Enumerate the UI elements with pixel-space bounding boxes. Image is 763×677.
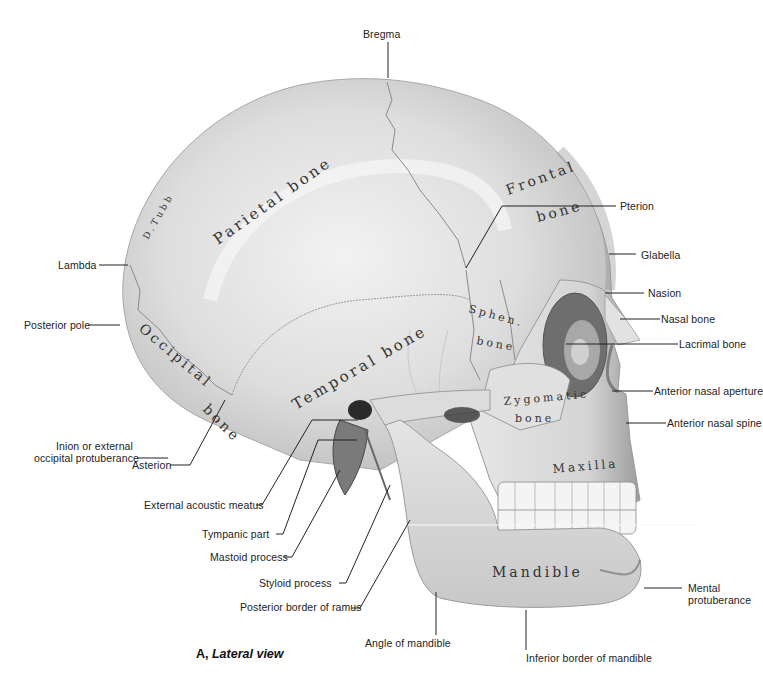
label-angle-of-mandible: Angle of mandible <box>365 637 451 649</box>
label-pterion: Pterion <box>620 200 654 212</box>
label-asterion: Asterion <box>132 459 171 471</box>
label-inion-line-2: occipital protuberance <box>34 452 133 464</box>
label-external-acoustic-meatus: External acoustic meatus <box>144 499 264 511</box>
label-anterior-nasal-aperture: Anterior nasal aperture <box>654 385 763 397</box>
label-anterior-nasal-spine: Anterior nasal spine <box>667 417 762 429</box>
label-nasal-bone: Nasal bone <box>661 313 715 325</box>
label-posterior-pole: Posterior pole <box>24 319 90 331</box>
label-lacrimal-bone: Lacrimal bone <box>679 338 746 350</box>
label-nasion: Nasion <box>648 287 681 299</box>
label-lambda: Lambda <box>58 259 97 271</box>
label-mental-protuberance-line-2: protuberance <box>688 594 751 606</box>
figure-caption: A, Lateral view <box>196 647 284 661</box>
label-glabella: Glabella <box>641 249 680 261</box>
label-inion: Inion or external occipital protuberance <box>34 440 133 464</box>
teeth <box>498 482 636 534</box>
label-mastoid-process: Mastoid process <box>210 551 288 563</box>
caption-title: Lateral view <box>212 647 284 661</box>
label-styloid-process: Styloid process <box>259 577 332 589</box>
label-mental-protuberance-line-1: Mental <box>688 582 751 594</box>
label-tympanic-part: Tympanic part <box>202 528 269 540</box>
label-mental-protuberance: Mental protuberance <box>688 582 751 606</box>
zygomatic-bone-name-2: bone <box>515 412 554 425</box>
mandible-bone-name: Mandible <box>492 564 583 580</box>
label-inferior-border-mandible: Inferior border of mandible <box>526 652 652 664</box>
caption-prefix: A, <box>196 647 209 661</box>
label-posterior-border-ramus: Posterior border of ramus <box>240 601 362 613</box>
acoustic-meatus-shape <box>348 400 372 420</box>
label-inion-line-1: Inion or external <box>34 440 133 452</box>
label-bregma: Bregma <box>363 28 400 40</box>
